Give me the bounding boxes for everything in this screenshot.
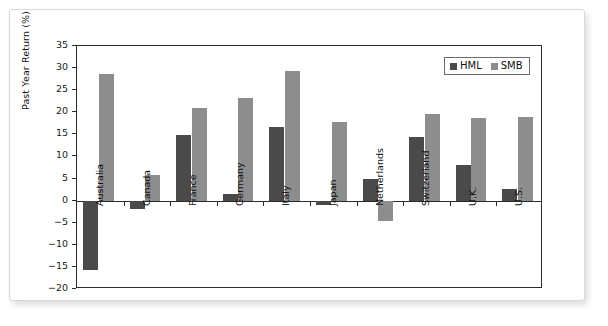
x-axis-label-germany: Germany: [235, 162, 245, 206]
x-axis-tick-mark: [450, 201, 451, 206]
x-axis-tick-mark: [357, 201, 358, 206]
x-axis-label-australia: Australia: [95, 164, 105, 206]
y-axis-tick-label: 35: [40, 40, 68, 50]
y-axis-tick-label: 30: [40, 62, 68, 72]
y-axis-tick-label: −20: [40, 283, 68, 293]
x-axis-tick-mark: [124, 201, 125, 206]
y-axis-tick-mark: [72, 288, 76, 289]
legend-entry-smb: SMB: [491, 61, 523, 71]
x-axis-label-france: France: [188, 174, 198, 206]
y-axis-tick-label: 5: [40, 173, 68, 183]
x-axis-label-italy: Italy: [281, 185, 291, 206]
y-axis-tick-label: 10: [40, 150, 68, 160]
x-axis-label-u-k: U.K.: [468, 186, 478, 205]
x-axis-label-netherlands: Netherlands: [375, 148, 385, 206]
bar-hml-australia: [83, 201, 98, 271]
x-axis-label-canada: Canada: [142, 169, 152, 205]
y-axis-tick-label: −10: [40, 239, 68, 249]
legend-swatch-hml-icon: [450, 63, 457, 70]
x-axis-label-u-s: U.S.: [514, 187, 524, 206]
x-axis-tick-mark: [170, 201, 171, 206]
chart-legend: HMLSMB: [444, 57, 530, 75]
legend-entry-hml: HML: [450, 61, 482, 71]
x-axis-tick-mark: [496, 201, 497, 206]
y-axis-tick-label: −5: [40, 217, 68, 227]
x-axis-tick-mark: [310, 201, 311, 206]
legend-label: SMB: [501, 61, 523, 71]
y-axis-tick-label: 20: [40, 106, 68, 116]
x-axis-tick-mark: [403, 201, 404, 206]
y-axis-tick-label: 25: [40, 84, 68, 94]
legend-swatch-smb-icon: [491, 63, 498, 70]
y-axis-tick-label: 15: [40, 128, 68, 138]
x-axis-tick-mark: [263, 201, 264, 206]
plot-inner: [77, 46, 541, 287]
x-axis-label-switzerland: Switzerland: [421, 150, 431, 205]
plot-area: [76, 45, 542, 288]
y-axis-title: Past Year Return (%): [20, 11, 31, 110]
bar-smb-italy: [285, 71, 300, 200]
x-axis-tick-mark: [217, 201, 218, 206]
legend-label: HML: [460, 61, 482, 71]
chart-figure: Past Year Return (%) 35302520151050−5−10…: [0, 0, 608, 326]
y-axis-tick-label: 0: [40, 195, 68, 205]
y-axis-tick-label: −15: [40, 261, 68, 271]
x-axis-label-japan: Japan: [328, 179, 338, 206]
